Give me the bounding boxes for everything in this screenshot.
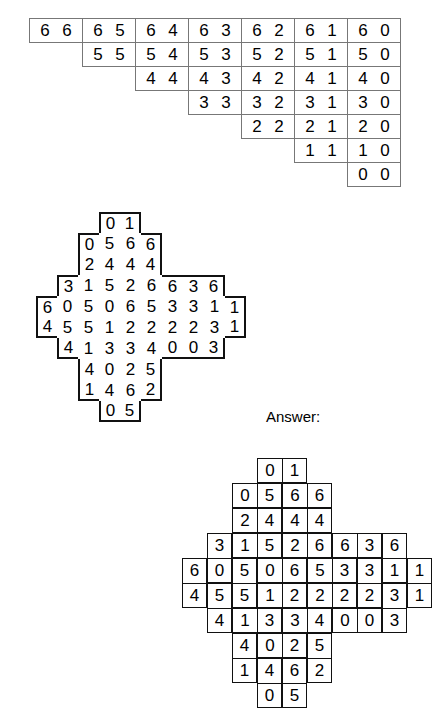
answer-domino[interactable]: 13 — [232, 608, 282, 633]
answer-domino-half: 6 — [283, 484, 307, 507]
puzzle-cell[interactable]: 1 — [225, 317, 246, 338]
answer-domino[interactable]: 52 — [307, 633, 332, 683]
answer-domino[interactable]: 55 — [232, 558, 257, 608]
puzzle-cell[interactable]: 1 — [78, 338, 99, 359]
puzzle-cell[interactable]: 6 — [162, 275, 183, 296]
puzzle-cell[interactable]: 5 — [120, 401, 141, 422]
puzzle-cell[interactable]: 6 — [120, 380, 141, 401]
puzzle-cell[interactable]: 3 — [120, 338, 141, 359]
answer-domino[interactable]: 06 — [257, 558, 307, 583]
answer-domino[interactable]: 33 — [382, 583, 407, 633]
puzzle-cell[interactable]: 3 — [204, 317, 225, 338]
puzzle-cell[interactable]: 1 — [120, 212, 141, 233]
puzzle-cell[interactable]: 5 — [78, 317, 99, 338]
puzzle-cell[interactable]: 1 — [204, 296, 225, 317]
answer-domino-half: 3 — [257, 609, 281, 632]
puzzle-cell[interactable]: 4 — [57, 338, 78, 359]
puzzle-cell[interactable]: 2 — [120, 359, 141, 380]
puzzle-cell[interactable]: 3 — [99, 338, 120, 359]
puzzle-cell[interactable]: 2 — [120, 317, 141, 338]
puzzle-cell[interactable]: 3 — [57, 275, 78, 296]
answer-domino[interactable]: 01 — [257, 458, 307, 483]
puzzle-cell[interactable]: 4 — [36, 317, 57, 338]
inventory-cell: 6 6 — [30, 19, 83, 43]
answer-domino[interactable]: 63 — [332, 533, 382, 558]
answer-domino[interactable]: 66 — [282, 483, 332, 508]
inventory-cell: 6 4 — [136, 19, 189, 43]
puzzle-cell[interactable]: 6 — [36, 296, 57, 317]
answer-domino-half: 5 — [308, 559, 332, 582]
inventory-cell: 3 0 — [348, 91, 401, 115]
answer-domino[interactable]: 30 — [207, 533, 232, 583]
answer-domino-half: 0 — [357, 609, 381, 632]
puzzle-cell[interactable]: 1 — [99, 317, 120, 338]
puzzle-cell[interactable]: 5 — [57, 317, 78, 338]
answer-domino[interactable]: 65 — [282, 658, 307, 708]
answer-domino[interactable]: 64 — [182, 558, 207, 608]
puzzle-cell[interactable]: 0 — [78, 233, 99, 254]
puzzle-cell[interactable]: 3 — [183, 275, 204, 296]
answer-domino[interactable]: 32 — [357, 558, 382, 608]
puzzle-cell[interactable]: 6 — [141, 233, 162, 254]
answer-domino-half: 6 — [183, 559, 206, 583]
puzzle-cell[interactable]: 5 — [99, 275, 120, 296]
answer-domino[interactable]: 12 — [257, 583, 307, 608]
inventory-row: 6 66 56 46 36 26 16 0 — [30, 19, 401, 43]
answer-domino-half: 3 — [208, 534, 231, 558]
puzzle-cell[interactable]: 5 — [141, 296, 162, 317]
answer-domino[interactable]: 44 — [282, 508, 332, 533]
answer-domino-half: 3 — [358, 559, 381, 583]
answer-domino[interactable]: 34 — [282, 608, 332, 633]
puzzle-cell[interactable]: 0 — [99, 359, 120, 380]
answer-domino-half: 0 — [258, 559, 282, 582]
puzzle-cell[interactable]: 2 — [141, 317, 162, 338]
puzzle-cell[interactable]: 1 — [78, 275, 99, 296]
answer-domino[interactable]: 41 — [232, 633, 257, 683]
answer-domino[interactable]: 24 — [232, 508, 282, 533]
puzzle-cell[interactable]: 0 — [99, 296, 120, 317]
answer-domino[interactable]: 05 — [232, 483, 282, 508]
puzzle-cell[interactable]: 5 — [78, 296, 99, 317]
answer-domino[interactable]: 53 — [307, 558, 357, 583]
puzzle-cell[interactable]: 0 — [183, 338, 204, 359]
answer-domino[interactable]: 40 — [257, 658, 282, 708]
puzzle-cell[interactable]: 3 — [204, 338, 225, 359]
puzzle-cell[interactable]: 1 — [225, 296, 246, 317]
answer-domino[interactable]: 11 — [407, 558, 432, 608]
puzzle-cell[interactable]: 4 — [141, 338, 162, 359]
puzzle-cell[interactable]: 4 — [120, 254, 141, 275]
puzzle-cell[interactable]: 2 — [162, 317, 183, 338]
answer-domino[interactable]: 26 — [282, 533, 332, 558]
inventory-cell: 5 1 — [295, 43, 348, 67]
puzzle-cell[interactable]: 3 — [162, 296, 183, 317]
puzzle-cell[interactable]: 6 — [120, 233, 141, 254]
puzzle-cell[interactable]: 0 — [99, 212, 120, 233]
puzzle-cell[interactable]: 4 — [99, 380, 120, 401]
puzzle-cell[interactable]: 2 — [141, 380, 162, 401]
puzzle-cell[interactable]: 4 — [78, 359, 99, 380]
puzzle-cell[interactable]: 4 — [141, 254, 162, 275]
answer-domino[interactable]: 15 — [232, 533, 282, 558]
answer-domino[interactable]: 00 — [332, 608, 382, 633]
puzzle-cell[interactable]: 0 — [57, 296, 78, 317]
puzzle-cell[interactable]: 2 — [183, 317, 204, 338]
puzzle-cell[interactable]: 0 — [99, 401, 120, 422]
puzzle-cell[interactable]: 4 — [99, 254, 120, 275]
puzzle-cell[interactable]: 6 — [120, 296, 141, 317]
inventory-cell-empty — [189, 115, 242, 139]
puzzle-cell[interactable]: 0 — [162, 338, 183, 359]
answer-domino-half: 5 — [208, 584, 231, 608]
puzzle-cell[interactable]: 2 — [78, 254, 99, 275]
puzzle-cell[interactable]: 6 — [204, 275, 225, 296]
puzzle-cell[interactable]: 2 — [120, 275, 141, 296]
puzzle-cell[interactable]: 3 — [183, 296, 204, 317]
puzzle-cell[interactable]: 5 — [99, 233, 120, 254]
answer-domino[interactable]: 22 — [307, 583, 357, 608]
answer-domino[interactable]: 02 — [257, 633, 307, 658]
answer-domino[interactable]: 61 — [382, 533, 407, 583]
puzzle-cell[interactable]: 5 — [141, 359, 162, 380]
puzzle-cell[interactable]: 1 — [78, 380, 99, 401]
inventory-cell-empty — [136, 91, 189, 115]
answer-domino[interactable]: 54 — [207, 583, 232, 633]
puzzle-cell[interactable]: 6 — [141, 275, 162, 296]
